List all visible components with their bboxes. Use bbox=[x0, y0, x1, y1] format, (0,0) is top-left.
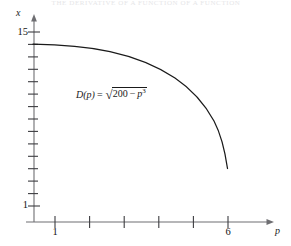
x-axis-label: p bbox=[275, 225, 280, 236]
plot-canvas bbox=[0, 0, 291, 246]
x-axis-arrowhead bbox=[267, 219, 275, 225]
demand-curve bbox=[33, 44, 228, 168]
equation-radical-group: √200−p3 bbox=[105, 88, 147, 101]
equation-argument: (p) bbox=[83, 89, 95, 100]
equation-equals-sign: = bbox=[97, 89, 103, 100]
curve-equation-annotation: D(p)=√200−p3 bbox=[76, 88, 147, 101]
figure-container: THE DERIVATIVE OF A FUNCTION OF A FUNCTI… bbox=[0, 0, 291, 246]
y-axis-label: x bbox=[16, 7, 20, 18]
y-tick-label-1: 1 bbox=[12, 199, 28, 210]
equation-radicand: 200−p3 bbox=[112, 87, 147, 99]
x-tick-label-6: 6 bbox=[221, 226, 235, 237]
x-tick-label-1: 1 bbox=[48, 226, 62, 237]
radicand-constant: 200 bbox=[113, 88, 128, 99]
radicand-exponent: 3 bbox=[142, 87, 146, 95]
y-axis-arrowhead bbox=[31, 14, 37, 22]
radicand-minus-sign: − bbox=[130, 88, 136, 99]
y-tick-label-15: 15 bbox=[12, 26, 28, 37]
